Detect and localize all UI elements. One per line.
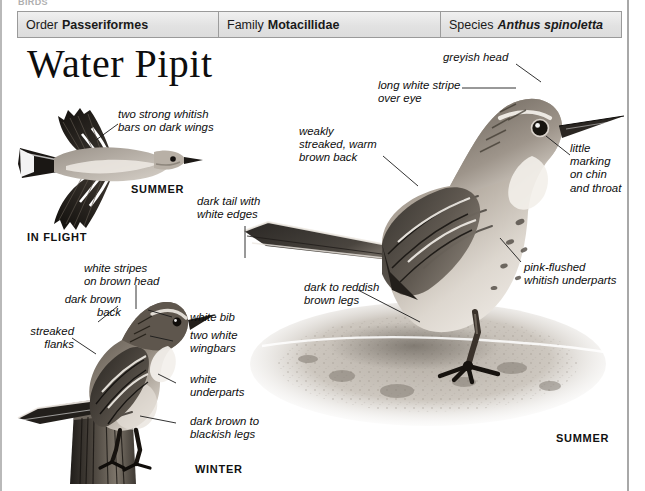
caption-in-flight: IN FLIGHT	[27, 231, 87, 243]
annotation-white-underparts: white underparts	[190, 373, 244, 399]
caption-summer-main: SUMMER	[556, 432, 609, 444]
annotation-dark-tail: dark tail with white edges	[197, 195, 260, 221]
annotation-pink-underparts: pink-flushed whitish underparts	[524, 261, 616, 287]
taxonomy-value-species: Anthus spinoletta	[497, 18, 603, 32]
page-title: Water Pipit	[27, 44, 213, 84]
annotation-dark-back-winter: dark brown back	[47, 293, 121, 319]
taxonomy-value-family: Motacillidae	[268, 18, 340, 32]
taxonomy-label-family: Family	[227, 18, 264, 32]
caption-summer-flight: SUMMER	[131, 183, 184, 195]
summer-pipit-illustration	[232, 46, 628, 446]
taxonomy-cell-order: Order Passeriformes	[18, 12, 226, 37]
taxonomy-label-order: Order	[26, 18, 58, 32]
page-border-left	[0, 0, 2, 491]
annotation-weakly-streaked-back: weakly streaked, warm brown back	[299, 125, 377, 165]
annotation-eye-stripe: long white stripe over eye	[378, 79, 460, 105]
taxonomy-label-species: Species	[449, 18, 493, 32]
caption-winter: WINTER	[195, 463, 243, 475]
running-head: BIRDS	[18, 0, 218, 5]
annotation-wingbars-flight: two strong whitish bars on dark wings	[118, 108, 214, 134]
taxonomy-value-order: Passeriformes	[62, 18, 148, 32]
field-guide-page: BIRDS Order Passeriformes Family Motacil…	[0, 0, 645, 491]
annotation-legs-winter: dark brown to blackish legs	[190, 415, 259, 441]
annotation-head-stripes-winter: white stripes on brown head	[84, 262, 159, 288]
annotation-streaked-flanks: streaked flanks	[20, 325, 74, 351]
annotation-legs-main: dark to reddish brown legs	[304, 281, 379, 307]
annotation-white-bib: white bib	[190, 311, 235, 324]
annotation-chin-throat: little marking on chin and throat	[570, 142, 621, 195]
taxonomy-cell-family: Family Motacillidae	[219, 12, 448, 37]
taxonomy-cell-species: Species Anthus spinoletta	[441, 12, 629, 37]
taxonomy-bar: Order Passeriformes Family Motacillidae …	[17, 11, 622, 38]
annotation-two-wingbars: two white wingbars	[190, 329, 237, 355]
annotation-greyish-head: greyish head	[443, 51, 508, 64]
